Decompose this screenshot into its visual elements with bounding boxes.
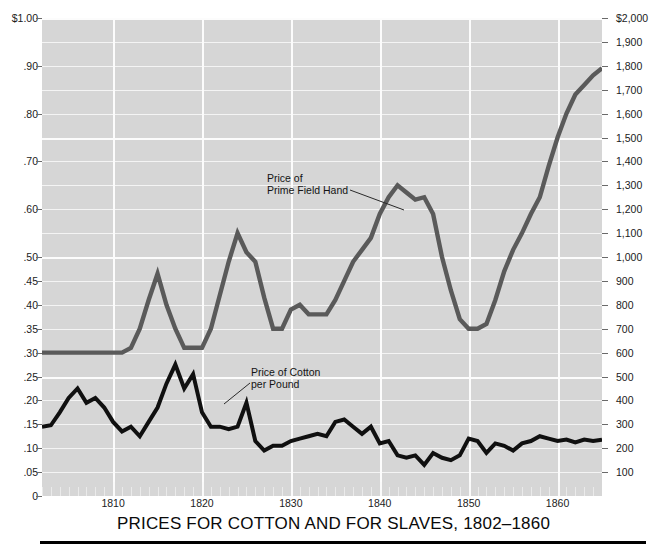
y-axis-right-tick-mark — [602, 377, 608, 378]
y-axis-right-tick-label: 1,500 — [616, 133, 642, 144]
x-axis-tick-label: 1810 — [101, 498, 124, 509]
y-axis-right-tick-label: $2,000 — [616, 13, 648, 24]
y-axis-right-tick-mark — [602, 448, 608, 449]
y-axis-right-tick-label: 1,100 — [616, 228, 642, 239]
y-axis-left-tick-label: .60 — [6, 204, 38, 215]
y-axis-right-tick-label: 200 — [616, 443, 634, 454]
y-axis-right-tick-label: 1,600 — [616, 109, 642, 120]
y-axis-right-tick-mark — [602, 138, 608, 139]
y-axis-left-tick-mark — [36, 400, 42, 401]
y-axis-right-tick-mark — [602, 209, 608, 210]
y-axis-left-tick-mark — [36, 257, 42, 258]
y-axis-right-tick-label: 1,900 — [616, 37, 642, 48]
y-axis-right-tick-mark — [602, 185, 608, 186]
chart-figure: Price of Prime Field Hand Price of Cotto… — [0, 0, 667, 551]
y-axis-right-tick-mark — [602, 281, 608, 282]
x-axis-tick-label: 1830 — [279, 498, 302, 509]
y-axis-right-tick-mark — [602, 42, 608, 43]
y-axis-right-tick-mark — [602, 161, 608, 162]
y-axis-right-tick-label: 1,800 — [616, 61, 642, 72]
x-axis-tick-label: 1860 — [546, 498, 569, 509]
y-axis-left-tick-label: .40 — [6, 300, 38, 311]
y-axis-left-tick-label: .15 — [6, 419, 38, 430]
y-axis-right-tick-label: 700 — [616, 324, 634, 335]
y-axis-left-tick-label: .70 — [6, 156, 38, 167]
y-axis-right-tick-mark — [602, 114, 608, 115]
y-axis-left-tick-label: .50 — [6, 252, 38, 263]
y-axis-left-tick-mark — [36, 281, 42, 282]
y-axis-left-tick-mark — [36, 18, 42, 19]
y-axis-left-tick-mark — [36, 305, 42, 306]
y-axis-left-tick-mark — [36, 114, 42, 115]
y-axis-right-tick-label: 300 — [616, 419, 634, 430]
y-axis-left-tick-label: .35 — [6, 324, 38, 335]
y-axis-right-tick-label: 500 — [616, 372, 634, 383]
y-axis-right-tick-mark — [602, 18, 608, 19]
y-axis-left-tick-mark — [36, 66, 42, 67]
y-axis-right-tick-label: 800 — [616, 300, 634, 311]
plot-area — [42, 18, 602, 496]
annotation-prime-field-hand: Price of Prime Field Hand — [267, 172, 348, 196]
annotation-cotton: Price of Cotton per Pound — [251, 366, 320, 390]
y-axis-right-tick-mark — [602, 66, 608, 67]
leader-line-prime-field-hand — [350, 190, 404, 210]
series-line-prime-field-hand — [42, 68, 602, 352]
y-axis-left: $1.00.90.80.70.60.50.45.40.35.30.25.20.1… — [0, 0, 38, 551]
y-axis-left-tick-label: $1.00 — [6, 13, 38, 24]
y-axis-right-tick-label: 1,000 — [616, 252, 642, 263]
y-axis-left-tick-label: .30 — [6, 348, 38, 359]
y-axis-right-tick-mark — [602, 353, 608, 354]
x-axis-tick-label: 1820 — [190, 498, 213, 509]
y-axis-right-tick-label: 100 — [616, 467, 634, 478]
y-axis-right-tick-label: 1,300 — [616, 180, 642, 191]
y-axis-right-tick-label: 1,700 — [616, 85, 642, 96]
series-line-cotton — [42, 365, 602, 465]
y-axis-right: $2,0001,9001,8001,7001,6001,5001,4001,30… — [608, 0, 667, 551]
chart-title: PRICES FOR COTTON AND FOR SLAVES, 1802–1… — [0, 514, 667, 534]
x-axis-tick-label: 1840 — [368, 498, 391, 509]
y-axis-right-tick-label: 600 — [616, 348, 634, 359]
y-axis-left-tick-label: .90 — [6, 61, 38, 72]
y-axis-left-tick-label: .45 — [6, 276, 38, 287]
y-axis-right-tick-mark — [602, 233, 608, 234]
y-axis-left-tick-mark — [36, 448, 42, 449]
y-axis-left-tick-mark — [36, 377, 42, 378]
y-axis-left-tick-mark — [36, 161, 42, 162]
y-axis-left-tick-label: .25 — [6, 372, 38, 383]
y-axis-left-tick-mark — [36, 353, 42, 354]
y-axis-right-tick-mark — [602, 424, 608, 425]
y-axis-right-tick-label: 400 — [616, 395, 634, 406]
y-axis-left-tick-label: .80 — [6, 109, 38, 120]
y-axis-left-tick-mark — [36, 472, 42, 473]
series-layer — [42, 18, 602, 496]
y-axis-right-tick-label: 900 — [616, 276, 634, 287]
y-axis-right-tick-mark — [602, 472, 608, 473]
y-axis-right-tick-mark — [602, 257, 608, 258]
y-axis-right-tick-mark — [602, 305, 608, 306]
title-underline-rule — [40, 541, 646, 544]
y-axis-left-tick-mark — [36, 209, 42, 210]
y-axis-left-tick-mark — [36, 424, 42, 425]
y-axis-right-tick-mark — [602, 90, 608, 91]
y-axis-right-tick-mark — [602, 400, 608, 401]
y-axis-left-tick-label: .05 — [6, 467, 38, 478]
y-axis-left-tick-label: .20 — [6, 395, 38, 406]
y-axis-left-tick-mark — [36, 329, 42, 330]
x-axis-tick-label: 1850 — [457, 498, 480, 509]
y-axis-right-tick-label: 1,200 — [616, 204, 642, 215]
y-axis-right-tick-label: 1,400 — [616, 156, 642, 167]
y-axis-right-tick-mark — [602, 329, 608, 330]
y-axis-left-tick-label: .10 — [6, 443, 38, 454]
